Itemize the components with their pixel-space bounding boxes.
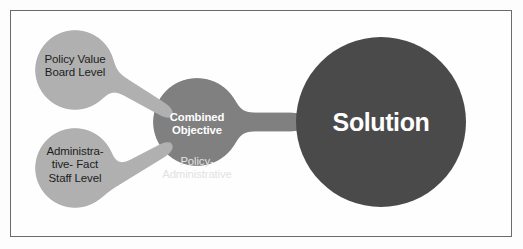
diagram-canvas: Policy Value Board Level Administra- tiv… — [0, 0, 523, 249]
combined-solution-connector — [196, 113, 306, 131]
solution-circle-shape — [296, 37, 466, 207]
diagram-shapes — [0, 0, 523, 249]
administrative-circle-shape — [35, 128, 115, 208]
